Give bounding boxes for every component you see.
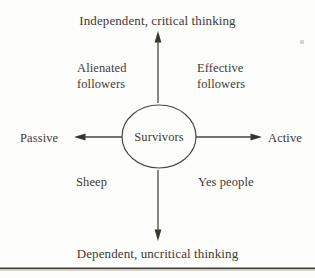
left-arrowhead-icon xyxy=(74,134,86,141)
horizontal-axis-left-label: Passive xyxy=(20,130,58,146)
down-arrowhead-icon xyxy=(155,230,162,242)
vertical-axis-bottom-label: Dependent, uncritical thinking xyxy=(0,246,315,262)
quadrant-label-yes-people: Yes people xyxy=(198,174,254,190)
horizontal-axis-right-label: Active xyxy=(268,130,302,146)
up-arrowhead-icon xyxy=(155,31,162,43)
quadrant-label-effective-followers: Effective followers xyxy=(197,60,245,92)
center-circle-label: Survivors xyxy=(123,129,195,145)
right-arrowhead-icon xyxy=(251,134,263,141)
followership-quadrant-diagram: Independent, critical thinking Alienated… xyxy=(0,0,315,278)
quadrant-label-alienated-followers: Alienated followers xyxy=(77,60,127,92)
bottom-rule xyxy=(0,268,315,270)
scan-artifact-speck xyxy=(300,40,304,44)
quadrant-label-sheep: Sheep xyxy=(76,174,107,190)
vertical-axis-top-label: Independent, critical thinking xyxy=(0,13,315,29)
